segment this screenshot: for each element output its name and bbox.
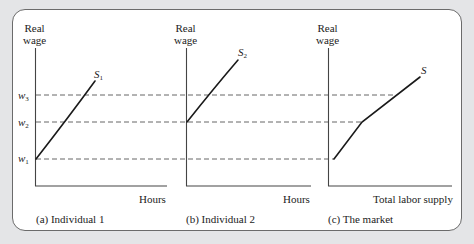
supply-curve-s2 xyxy=(187,60,238,122)
caption-a: (a) Individual 1 xyxy=(36,213,104,225)
axes-panel-c xyxy=(329,48,453,186)
y-label-line1: Real xyxy=(174,22,197,34)
curve-label-s: S xyxy=(421,64,427,76)
curve-label-s2: S2 xyxy=(238,46,247,62)
x-axis-label-b: Hours xyxy=(283,193,310,205)
x-axis-label-a: Hours xyxy=(139,193,166,205)
tick-w3: w3 xyxy=(18,89,29,105)
supply-curve-s1 xyxy=(36,81,95,159)
y-label-line2: wage xyxy=(316,34,339,46)
curve-label-s1: S1 xyxy=(94,68,103,84)
axes-panel-b xyxy=(187,48,312,186)
y-axis-label-b: Real wage xyxy=(174,22,197,46)
y-axis-label-a: Real wage xyxy=(23,22,46,46)
y-label-line1: Real xyxy=(23,22,46,34)
x-axis-label-c: Total labor supply xyxy=(373,193,453,205)
y-label-line1: Real xyxy=(316,22,339,34)
y-label-line2: wage xyxy=(174,34,197,46)
market-supply-curve-s xyxy=(334,77,420,159)
caption-c: (c) The market xyxy=(328,213,393,225)
tick-w2: w2 xyxy=(18,116,29,132)
y-axis-label-c: Real wage xyxy=(316,22,339,46)
labor-supply-diagram xyxy=(0,0,474,244)
tick-w1: w1 xyxy=(18,152,29,168)
y-label-line2: wage xyxy=(23,34,46,46)
caption-b: (b) Individual 2 xyxy=(186,213,255,225)
